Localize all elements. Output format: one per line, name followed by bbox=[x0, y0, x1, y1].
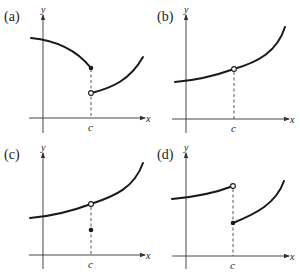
panel-label: (c) bbox=[4, 147, 20, 163]
y-axis-label: y bbox=[183, 4, 189, 15]
panel-d: (d) y x c bbox=[157, 142, 295, 271]
open-dot bbox=[231, 184, 236, 189]
y-axis-label: y bbox=[183, 142, 189, 153]
c-label: c bbox=[230, 259, 235, 271]
left-curve bbox=[31, 38, 91, 68]
filled-dot bbox=[89, 228, 94, 233]
x-axis-label: x bbox=[289, 114, 295, 125]
c-label: c bbox=[231, 122, 236, 134]
panel-c: (c) y x c bbox=[4, 142, 151, 270]
left-curve bbox=[172, 186, 233, 199]
right-curve bbox=[233, 181, 284, 223]
curve-left bbox=[175, 69, 234, 82]
x-axis-label: x bbox=[289, 251, 295, 262]
panel-a: (a) y x c bbox=[4, 4, 151, 133]
c-label: c bbox=[88, 258, 93, 270]
curve-left bbox=[30, 204, 91, 218]
filled-dot bbox=[89, 66, 94, 71]
y-axis-label: y bbox=[40, 4, 46, 15]
open-dot bbox=[89, 202, 94, 207]
filled-dot bbox=[231, 221, 236, 226]
panel-label: (d) bbox=[157, 147, 174, 163]
open-dot bbox=[89, 91, 94, 96]
panel-label: (b) bbox=[157, 9, 174, 25]
curve-right bbox=[91, 163, 143, 204]
curve-right bbox=[234, 27, 285, 69]
x-axis-label: x bbox=[145, 250, 151, 261]
y-axis-label: y bbox=[40, 142, 46, 153]
panel-label: (a) bbox=[4, 9, 20, 25]
c-label: c bbox=[88, 121, 93, 133]
discontinuity-figure: (a) y x c (b) y x c (c) y x c bbox=[0, 0, 300, 276]
open-dot bbox=[232, 67, 237, 72]
panel-b: (b) y x c bbox=[157, 4, 295, 134]
right-curve bbox=[91, 57, 143, 93]
x-axis-label: x bbox=[145, 113, 151, 124]
